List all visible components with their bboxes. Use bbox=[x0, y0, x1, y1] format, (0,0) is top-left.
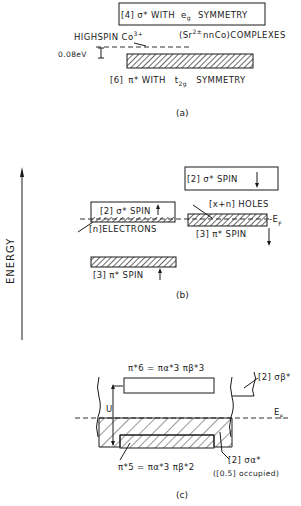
upper-hubbard-band bbox=[124, 378, 214, 393]
fermi-label-b: -EF bbox=[269, 214, 282, 227]
eg-band-label: [4] σ* WITH eg SYMMETRY bbox=[121, 10, 248, 22]
pi-spin-down-label: [3] π* SPIN bbox=[196, 229, 247, 239]
caption-b: (b) bbox=[176, 290, 189, 300]
panel-b: [2] σ* SPIN [2] σ* SPIN [n]ELECTRONS [x+… bbox=[78, 167, 282, 300]
sigma-spin-down-label: [2] σ* SPIN bbox=[187, 174, 238, 184]
caption-a: (a) bbox=[176, 108, 189, 118]
panel-c: π*6 = πα*3 πβ*3 EF U [2] σβ* π*5 = πα*3 … bbox=[75, 363, 291, 500]
u-label: U bbox=[106, 404, 113, 414]
sigma-spin-up-label: [2] σ* SPIN bbox=[100, 206, 151, 216]
caption-c: (c) bbox=[176, 490, 188, 500]
occupied-note: ([0.5] occupied) bbox=[213, 469, 279, 478]
pi-spin-up-band bbox=[91, 257, 176, 267]
sigma-beta-pointer bbox=[244, 378, 258, 388]
complexes-label: (Sr2±nnCo)COMPLEXES bbox=[179, 28, 286, 40]
lower-pi-equation: π*5 = πα*3 πβ*2 bbox=[118, 462, 195, 472]
electrons-label: [n]ELECTRONS bbox=[89, 224, 157, 234]
spin-down-arrow-icon bbox=[255, 172, 259, 188]
pi-spin-down-band bbox=[188, 214, 267, 226]
spin-up-arrow-icon bbox=[156, 204, 160, 215]
energy-band-diagram: [4] σ* WITH eg SYMMETRY HIGHSPIN Co3+ (S… bbox=[0, 0, 301, 506]
t2g-band-label: [6] π* WITH t2g SYMMETRY bbox=[110, 75, 246, 88]
spin-down-arrow-icon bbox=[267, 228, 271, 246]
upper-pi-equation: π*6 = πα*3 πβ*3 bbox=[128, 363, 205, 373]
sigma-beta-label: [2] σβ* bbox=[258, 372, 291, 382]
arrow-up-icon bbox=[20, 167, 24, 177]
pi-spin-up-label: [3] π* SPIN bbox=[93, 270, 144, 280]
lower-hubbard-band bbox=[120, 435, 214, 448]
high-spin-label: HIGHSPIN Co3+ bbox=[74, 30, 143, 42]
spin-up-arrow-icon bbox=[158, 268, 162, 280]
holes-label: [x+n] HOLES bbox=[209, 199, 269, 209]
energy-axis-label: ENERGY bbox=[5, 238, 16, 284]
gap-marker bbox=[98, 48, 104, 58]
t2g-band bbox=[127, 54, 253, 68]
panel-a: [4] σ* WITH eg SYMMETRY HIGHSPIN Co3+ (S… bbox=[58, 3, 286, 118]
gap-label: 0.08eV bbox=[58, 50, 87, 59]
sigma-beta-wavy bbox=[253, 372, 256, 396]
sigma-up-electrons bbox=[91, 217, 175, 222]
energy-axis: ENERGY bbox=[5, 167, 24, 340]
sigma-alpha-label: [2] σα* bbox=[228, 455, 261, 465]
high-spin-pointer bbox=[134, 43, 146, 46]
